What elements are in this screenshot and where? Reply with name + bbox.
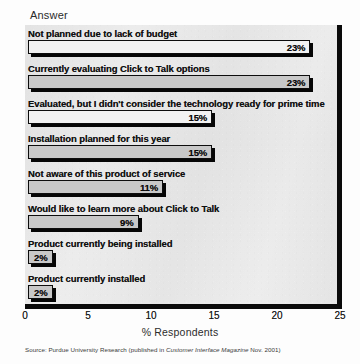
x-tick-label: 15 xyxy=(208,310,219,321)
bar-row: Evaluated, but I didn't consider the tec… xyxy=(25,97,340,132)
x-axis-ticks: 0510152025 xyxy=(0,310,360,324)
bar: 11% xyxy=(28,180,163,194)
x-axis-label: % Respondents xyxy=(0,326,360,338)
bar-row: Not planned due to lack of budget23% xyxy=(25,27,340,62)
bar-fill: 15% xyxy=(28,110,212,124)
bar-value-label: 15% xyxy=(188,147,211,158)
bar-category-label: Product currently being installed xyxy=(28,237,172,250)
bar: 23% xyxy=(28,40,310,54)
bar-category-label: Would like to learn more about Click to … xyxy=(28,202,219,215)
x-axis-line xyxy=(25,304,342,309)
source-publication: Customer Interface Magazine xyxy=(166,346,249,353)
bar-value-label: 23% xyxy=(287,42,310,53)
bar-category-label: Currently evaluating Click to Talk optio… xyxy=(28,62,210,75)
bar-fill: 9% xyxy=(28,215,139,229)
bar: 9% xyxy=(28,215,139,229)
bar-category-label: Not aware of this product of service xyxy=(28,167,185,180)
x-tick-label: 10 xyxy=(145,310,156,321)
bar-category-label: Not planned due to lack of budget xyxy=(28,27,177,40)
bar-fill: 2% xyxy=(28,250,53,264)
bar: 23% xyxy=(28,75,310,89)
bar: 15% xyxy=(28,110,212,124)
bar-value-label: 23% xyxy=(287,77,310,88)
source-note: Source: Purdue University Research (publ… xyxy=(25,346,281,353)
bar-fill: 2% xyxy=(28,285,53,299)
bar-row: Product currently installed2% xyxy=(25,272,340,307)
bar-value-label: 2% xyxy=(34,287,52,298)
bar-value-label: 9% xyxy=(120,217,138,228)
bar-category-label: Evaluated, but I didn't consider the tec… xyxy=(28,97,325,110)
bar: 15% xyxy=(28,145,212,159)
bar-category-label: Product currently installed xyxy=(28,272,145,285)
bar-fill: 23% xyxy=(28,75,310,89)
chart-page: Answer Not planned due to lack of budget… xyxy=(0,0,360,364)
bar-value-label: 2% xyxy=(34,252,52,263)
bar: 2% xyxy=(28,285,53,299)
bar-value-label: 15% xyxy=(188,112,211,123)
bar-fill: 11% xyxy=(28,180,163,194)
bar-row: Currently evaluating Click to Talk optio… xyxy=(25,62,340,97)
bar-row: Not aware of this product of service11% xyxy=(25,167,340,202)
x-tick-label: 25 xyxy=(334,310,345,321)
right-axis-line xyxy=(337,25,342,309)
bar-fill: 15% xyxy=(28,145,212,159)
page-title: Answer xyxy=(30,9,68,21)
plot-area: Not planned due to lack of budget23%Curr… xyxy=(25,25,340,306)
x-tick-label: 0 xyxy=(22,310,28,321)
bar-category-label: Installation planned for this year xyxy=(28,132,170,145)
bar-row: Would like to learn more about Click to … xyxy=(25,202,340,237)
bar-row: Installation planned for this year15% xyxy=(25,132,340,167)
bar-fill: 23% xyxy=(28,40,310,54)
bar-value-label: 11% xyxy=(140,182,162,193)
source-prefix: Source: Purdue University Research (publ… xyxy=(25,346,166,353)
source-suffix: Nov. 2001) xyxy=(249,346,281,353)
bar-row: Product currently being installed2% xyxy=(25,237,340,272)
x-tick-label: 20 xyxy=(271,310,282,321)
x-tick-label: 5 xyxy=(85,310,91,321)
bar: 2% xyxy=(28,250,53,264)
